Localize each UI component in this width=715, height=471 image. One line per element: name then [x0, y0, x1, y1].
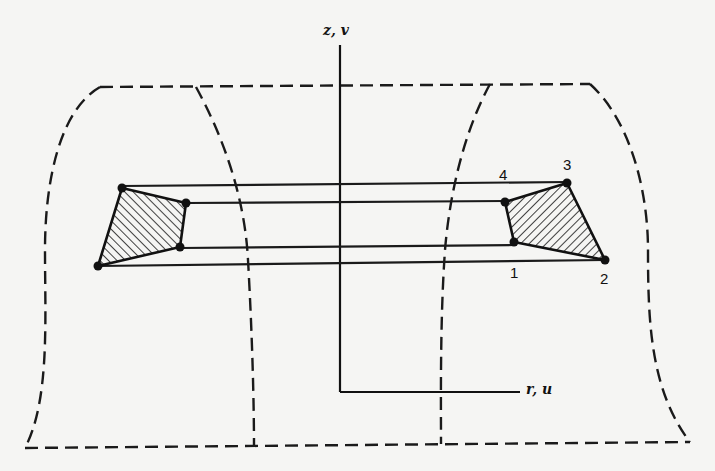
left-node — [118, 184, 127, 193]
projection-line-lower — [180, 245, 514, 248]
node-4 — [501, 198, 510, 207]
figure-canvas: z, v r, u 1 2 3 4 — [0, 0, 715, 471]
node-label-4: 4 — [499, 166, 507, 183]
left-element-hatched-quad — [98, 188, 186, 266]
z-axis-label: z, v — [323, 22, 349, 38]
projection-line-upper — [186, 201, 505, 203]
inner-right-curve — [441, 84, 490, 444]
node-label-2: 2 — [600, 270, 608, 287]
outline-bottom-edge — [25, 442, 690, 448]
node-1 — [510, 238, 519, 247]
node-label-1: 1 — [510, 264, 518, 281]
left-element — [94, 184, 191, 271]
inner-left-curve — [196, 87, 254, 446]
node-2 — [601, 256, 610, 265]
left-node — [182, 199, 191, 208]
right-element-hatched-quad — [505, 183, 605, 260]
left-node — [176, 243, 185, 252]
outline-top-edge — [100, 84, 590, 87]
left-node — [94, 262, 103, 271]
r-axis-label: r, u — [526, 381, 552, 397]
axes — [340, 45, 520, 392]
node-label-3: 3 — [563, 156, 571, 173]
node-3 — [563, 179, 572, 188]
diagram-svg — [0, 0, 715, 471]
outline-left-curve — [25, 87, 100, 448]
projection-line-bottom — [98, 260, 605, 266]
right-element — [501, 179, 610, 265]
